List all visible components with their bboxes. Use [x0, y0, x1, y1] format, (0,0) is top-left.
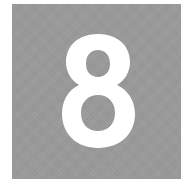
digit-eight-glyph — [0, 0, 190, 186]
